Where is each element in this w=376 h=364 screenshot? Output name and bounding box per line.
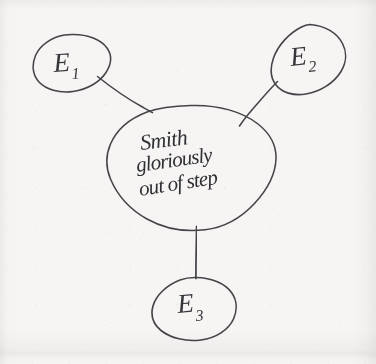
- node-e3[interactable]: E 3: [152, 277, 236, 340]
- node-e3-subscript: 3: [194, 306, 204, 324]
- node-e3-label: E: [175, 288, 196, 319]
- edge-center-e2: [240, 82, 278, 127]
- ink-drawing-layer: Smith gloriously out of step E 1 E 2: [0, 0, 376, 364]
- paper-sheet: Smith gloriously out of step E 1 E 2: [0, 0, 376, 364]
- edge-center-e1: [98, 77, 153, 113]
- edge-center-e3: [196, 227, 197, 279]
- node-e1[interactable]: E 1: [33, 34, 110, 91]
- node-e1-outline: [33, 34, 110, 91]
- node-e1-subscript: 1: [71, 64, 80, 82]
- node-e1-label: E: [51, 47, 71, 78]
- center-node[interactable]: Smith gloriously out of step: [107, 105, 276, 230]
- node-e2-label: E: [287, 40, 308, 72]
- center-node-text: Smith gloriously out of step: [134, 124, 218, 201]
- node-e2-subscript: 2: [308, 57, 318, 75]
- node-e2[interactable]: E 2: [271, 25, 345, 95]
